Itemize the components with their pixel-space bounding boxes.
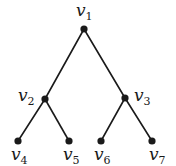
label-v6: v6	[94, 144, 111, 166]
tree-labels: v1v2v3v4v5v6v7	[11, 0, 166, 166]
label-v2: v2	[18, 85, 35, 108]
label-v3: v3	[134, 85, 151, 108]
edge-v1-v3	[84, 29, 125, 98]
tree-diagram: v1v2v3v4v5v6v7	[0, 0, 176, 166]
node-v3	[121, 94, 128, 101]
edge-v2-v5	[45, 99, 69, 141]
node-v1	[80, 25, 87, 32]
label-v7: v7	[149, 144, 166, 166]
label-v4: v4	[11, 144, 28, 166]
edge-v1-v2	[45, 29, 84, 99]
edge-v3-v6	[101, 98, 125, 141]
tree-edges	[18, 29, 152, 141]
label-v5: v5	[63, 144, 80, 166]
node-v2	[41, 95, 48, 102]
label-v1: v1	[76, 0, 93, 23]
